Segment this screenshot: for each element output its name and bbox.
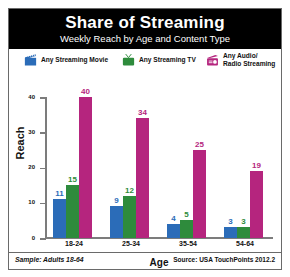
bar-group-35-54: 452535-54: [167, 97, 209, 238]
bar-18-24-series2[interactable]: 15: [66, 185, 79, 238]
clapperboard-icon: [23, 52, 38, 67]
x-tick-label: 18-24: [53, 240, 95, 247]
x-tick-label: 25-34: [110, 240, 152, 247]
bar-25-34-series3[interactable]: 34: [136, 118, 149, 238]
source-note: Source: USA TouchPoints 2012.2: [173, 256, 275, 263]
radio-icon: [205, 52, 220, 67]
bar-group-18-24: 11154018-24: [53, 97, 95, 238]
legend-item-1: Any Streaming Movie: [23, 52, 108, 67]
y-tick-label: 20: [13, 164, 35, 170]
chart-footer: Sample: Adults 18-64 Source: USA TouchPo…: [9, 252, 281, 269]
y-axis-label: Reach: [14, 119, 26, 167]
y-tick-mark: [40, 132, 46, 134]
legend-item-label: Any Streaming Movie: [41, 56, 108, 63]
y-tick-label: 0: [13, 235, 35, 241]
y-tick-label: 40: [13, 94, 35, 100]
chart-header: Share of Streaming Weekly Reach by Age a…: [9, 9, 281, 49]
legend-item-3: Any Audio/Radio Streaming: [205, 52, 275, 67]
bar-35-54-series3[interactable]: 25: [193, 150, 206, 238]
legend-item-2: Any Streaming TV: [121, 52, 196, 67]
bar-54-64-series3[interactable]: 19: [250, 171, 263, 238]
television-icon: [121, 52, 136, 67]
legend-item-label: Any Streaming TV: [139, 56, 196, 63]
x-tick-label: 54-64: [224, 240, 266, 247]
legend-item-label: Any Audio/Radio Streaming: [223, 52, 275, 66]
y-tick-mark: [40, 238, 46, 240]
bar-54-64-series2[interactable]: 3: [237, 227, 250, 238]
plot-area: Reach 010203040 11154018-249123425-34452…: [9, 77, 281, 271]
bar-25-34-series2[interactable]: 12: [123, 196, 136, 238]
bar-35-54-series1[interactable]: 4: [167, 224, 180, 238]
bar-18-24-series3[interactable]: 40: [79, 97, 92, 238]
bar-25-34-series1[interactable]: 9: [110, 206, 123, 238]
y-tick-label: 10: [13, 199, 35, 205]
bar-value-label: 25: [187, 140, 212, 149]
y-tick-mark: [40, 97, 46, 99]
bar-18-24-series1[interactable]: 11: [53, 199, 66, 238]
page-title: Share of Streaming: [65, 14, 224, 32]
y-tick-mark: [40, 203, 46, 205]
bar-value-label: 34: [130, 108, 155, 117]
y-tick-mark: [40, 168, 46, 170]
chart-card: Share of Streaming Weekly Reach by Age a…: [8, 8, 282, 270]
y-tick-label: 30: [13, 129, 35, 135]
bar-54-64-series1[interactable]: 3: [224, 227, 237, 238]
bar-35-54-series2[interactable]: 5: [180, 220, 193, 238]
chart-legend: Any Streaming MovieAny Streaming TVAny A…: [9, 49, 281, 77]
sample-note: Sample: Adults 18-64: [15, 256, 84, 263]
x-tick-label: 35-54: [167, 240, 209, 247]
page-subtitle: Weekly Reach by Age and Content Type: [60, 33, 230, 45]
bar-value-label: 19: [244, 161, 269, 170]
bar-group-25-34: 9123425-34: [110, 97, 152, 238]
bar-value-label: 40: [73, 87, 98, 96]
bar-group-54-64: 331954-64: [224, 97, 266, 238]
